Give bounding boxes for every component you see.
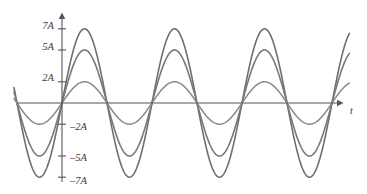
sine-waves-figure: 7A 5A 2A –2A –5A –7A t — [0, 0, 367, 194]
y-tick-label-neg2A: –2A — [70, 122, 106, 133]
y-tick-label-neg7A: –7A — [70, 176, 106, 187]
y-tick-label-2A: 2A — [24, 73, 54, 84]
plot-canvas — [0, 0, 367, 194]
axes-group — [17, 18, 338, 182]
y-tick-label-neg5A: –5A — [70, 153, 106, 164]
y-tick-label-5A: 5A — [24, 42, 54, 53]
y-tick-label-7A: 7A — [24, 21, 54, 32]
x-axis-label-t: t — [350, 106, 353, 116]
